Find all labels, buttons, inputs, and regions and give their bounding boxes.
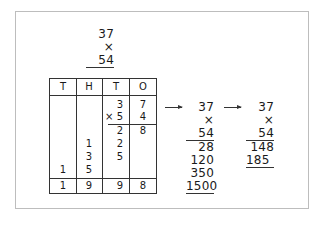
header-tens: T bbox=[103, 81, 129, 93]
header-ones: O bbox=[130, 81, 156, 93]
cell-ones: 4 bbox=[130, 111, 156, 123]
total-ones: 8 bbox=[130, 180, 156, 192]
compact-method: 37 × 54 148 185 bbox=[246, 101, 274, 168]
cell-tens: 2 bbox=[103, 138, 123, 150]
total-thousands: 1 bbox=[50, 180, 76, 192]
multiplier: × 54 bbox=[186, 114, 214, 141]
cell-hundreds: 5 bbox=[76, 164, 102, 176]
place-value-table: T H T O 3 7 × 5 4 2 8 1 2 3 5 1 5 1 9 9 … bbox=[49, 78, 157, 194]
multiplier: × 54 bbox=[86, 41, 114, 68]
partial-product: 1500 bbox=[186, 180, 214, 194]
header-divider bbox=[50, 95, 156, 96]
arrow-right-icon bbox=[224, 107, 241, 108]
cell-hundreds: 3 bbox=[76, 151, 102, 163]
total-divider bbox=[50, 178, 156, 179]
cell-ones: 8 bbox=[130, 125, 156, 137]
cell-thousands: 1 bbox=[50, 164, 76, 176]
header-thousands: T bbox=[50, 81, 76, 93]
total-tens: 9 bbox=[103, 180, 123, 192]
cell-ones: 7 bbox=[130, 99, 156, 111]
cell-tens: 3 bbox=[103, 99, 123, 111]
total-hundreds: 9 bbox=[76, 180, 102, 192]
multiplier: × 54 bbox=[246, 114, 274, 141]
header-hundreds: H bbox=[76, 81, 102, 93]
arrow-right-icon bbox=[165, 107, 182, 108]
problem-statement: 37 × 54 bbox=[86, 28, 114, 68]
cell-tens: 5 bbox=[103, 151, 123, 163]
expanded-method: 37 × 54 28 120 350 1500 bbox=[186, 101, 214, 194]
cell-tens: × 5 bbox=[103, 111, 123, 123]
partial-product: 185 bbox=[246, 154, 274, 168]
cell-hundreds: 1 bbox=[76, 138, 102, 150]
cell-tens: 2 bbox=[103, 125, 123, 137]
